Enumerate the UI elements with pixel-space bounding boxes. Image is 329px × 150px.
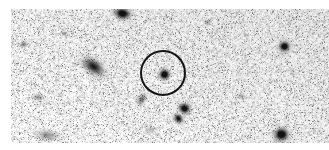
annotation-overlay (0, 0, 329, 150)
screenshot-viewport (0, 0, 329, 150)
target-source-circle-annotation (141, 51, 185, 95)
astronomical-image-figure (0, 0, 329, 150)
